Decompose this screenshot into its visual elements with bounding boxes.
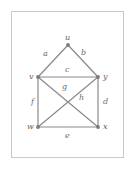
graph-vertex-u (66, 43, 70, 47)
graph-vertex-y (96, 75, 100, 79)
edge-label-a: a (43, 50, 48, 58)
edge-label-c: c (65, 66, 69, 74)
graph-vertex-x (96, 125, 100, 129)
vertex-label-w: w (27, 123, 34, 131)
edge-label-b: b (81, 49, 86, 57)
graph-vertex-w (36, 125, 40, 129)
edge-label-e: e (65, 132, 70, 140)
vertex-label-x: x (103, 123, 108, 131)
graph-vertex-v (36, 75, 40, 79)
vertex-label-u: u (65, 34, 70, 42)
vertex-label-y: y (103, 73, 108, 81)
graph-canvas (0, 0, 135, 171)
edge-label-f: f (31, 98, 34, 106)
edge-label-h: h (79, 94, 84, 102)
edge-label-d: d (103, 98, 108, 106)
vertex-label-v: v (29, 73, 34, 81)
figure-screenshot: abcdefghuvywx (0, 0, 135, 171)
edge-label-g: g (62, 83, 67, 91)
